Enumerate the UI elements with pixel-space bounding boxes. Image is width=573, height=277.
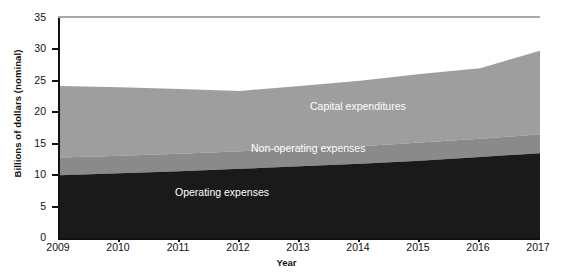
y-tick-label: 5 xyxy=(0,200,46,212)
x-tick-label: 2014 xyxy=(328,241,388,253)
x-tick-label: 2011 xyxy=(148,241,208,253)
y-tick-mark xyxy=(52,143,59,145)
x-tick-mark xyxy=(478,238,480,242)
y-tick-label: 25 xyxy=(0,74,46,86)
x-tick-mark xyxy=(118,238,120,242)
x-tick-mark xyxy=(418,238,420,242)
y-tick-mark xyxy=(52,80,59,82)
y-tick-mark xyxy=(52,174,59,176)
x-tick-label: 2017 xyxy=(508,241,568,253)
y-tick-label: 15 xyxy=(0,137,46,149)
y-tick-mark xyxy=(52,48,59,50)
x-tick-mark xyxy=(358,238,360,242)
y-tick-label: 10 xyxy=(0,168,46,180)
series-label-capital-expenditures: Capital expenditures xyxy=(310,100,406,112)
x-tick-mark xyxy=(178,238,180,242)
x-tick-label: 2016 xyxy=(448,241,508,253)
x-tick-label: 2013 xyxy=(268,241,328,253)
x-tick-mark xyxy=(238,238,240,242)
y-tick-label: 20 xyxy=(0,105,46,117)
chart-figure: Billions of dollars (nominal) 0510152025… xyxy=(0,0,573,277)
x-axis-title: Year xyxy=(0,257,573,268)
series-label-non-operating-expenses: Non-operating expenses xyxy=(251,142,365,154)
stacked-area-series xyxy=(60,18,540,238)
x-tick-label: 2010 xyxy=(88,241,148,253)
series-label-operating-expenses: Operating expenses xyxy=(175,186,269,198)
y-tick-mark xyxy=(52,111,59,113)
x-tick-label: 2012 xyxy=(208,241,268,253)
y-tick-label: 30 xyxy=(0,42,46,54)
plot-area xyxy=(58,18,540,240)
x-tick-label: 2009 xyxy=(28,241,88,253)
y-tick-mark xyxy=(52,206,59,208)
x-tick-mark xyxy=(298,238,300,242)
y-tick-label: 35 xyxy=(0,11,46,23)
x-tick-label: 2015 xyxy=(388,241,448,253)
